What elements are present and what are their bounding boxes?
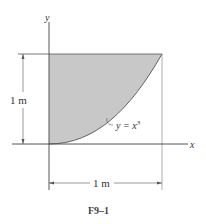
height-label: 1 m <box>10 94 27 106</box>
y-axis-label: y <box>44 12 50 23</box>
figure-caption: F9–1 <box>88 205 109 216</box>
curve-label: y = x3 <box>115 119 141 131</box>
x-axis-label: x <box>189 139 195 150</box>
figure-canvas: 1 m 1 m y x y = x3 F9–1 <box>0 0 206 224</box>
width-label: 1 m <box>93 177 110 189</box>
shaded-area <box>49 54 162 144</box>
